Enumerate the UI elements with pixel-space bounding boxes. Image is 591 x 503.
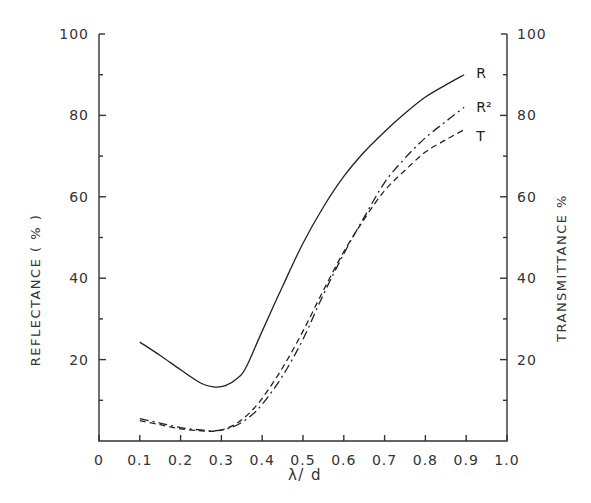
y-axis-title-right: TRANSMITTANCE % — [554, 194, 569, 343]
x-tick-label: 0.1 — [127, 452, 152, 468]
y-tick-label-right: 60 — [517, 189, 537, 205]
x-tick-label: 0.6 — [331, 452, 356, 468]
y-tick-label-left: 80 — [69, 107, 89, 123]
series-lines — [140, 75, 464, 432]
y-tick-label-right: 80 — [517, 107, 537, 123]
series-labels: RR²T — [475, 65, 491, 144]
x-tick-label: 0.9 — [454, 452, 479, 468]
y-tick-label-left: 60 — [69, 189, 89, 205]
ticks — [99, 75, 507, 441]
y-tick-labels-right: 20406080100 — [517, 26, 547, 368]
chart: 00.10.20.30.40.50.60.70.80.91.0 20406080… — [0, 0, 591, 503]
x-tick-label: 0.3 — [209, 452, 234, 468]
axes — [99, 34, 507, 441]
series-label: R² — [476, 99, 491, 115]
x-tick-label: 0.2 — [168, 452, 193, 468]
series-line-R2 — [140, 107, 464, 431]
x-tick-label: 0.7 — [372, 452, 397, 468]
y-axis-title-left: REFLECTANCE ( % ) — [28, 214, 43, 367]
y-tick-label-right: 20 — [517, 352, 537, 368]
x-tick-label: 1.0 — [494, 452, 519, 468]
series-line-R — [140, 75, 464, 387]
x-tick-label: 0.8 — [413, 452, 438, 468]
y-tick-labels-left: 20406080100 — [59, 26, 89, 368]
x-tick-label: 0 — [94, 452, 104, 468]
series-label: R — [476, 65, 486, 81]
y-tick-label-right: 100 — [517, 26, 547, 42]
x-tick-label: 0.4 — [250, 452, 275, 468]
series-line-T — [140, 130, 464, 432]
series-label: T — [475, 128, 485, 144]
y-tick-label-left: 40 — [69, 270, 89, 286]
y-tick-label-right: 40 — [517, 270, 537, 286]
y-tick-label-left: 20 — [69, 352, 89, 368]
x-axis-title: λ/ d — [288, 466, 322, 484]
y-tick-label-left: 100 — [59, 26, 89, 42]
